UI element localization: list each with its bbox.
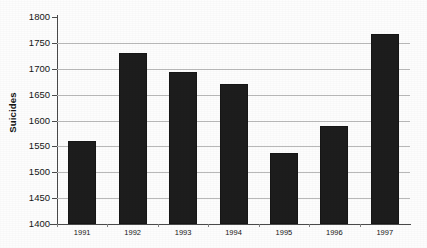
y-axis-tick-label: 1600	[4, 116, 50, 126]
bar	[119, 53, 147, 224]
y-axis-tick-label: 1500	[4, 167, 50, 177]
x-axis-tick-label: 1993	[158, 228, 208, 238]
y-axis-tick	[52, 121, 57, 122]
y-axis-tick	[52, 146, 57, 147]
x-axis-tick-label: 1994	[209, 228, 259, 238]
bar	[320, 126, 348, 224]
x-axis-tick	[107, 224, 108, 227]
plot-area	[57, 17, 410, 224]
x-axis-tick-label: 1995	[259, 228, 309, 238]
y-axis-tick-label: 1700	[4, 64, 50, 74]
bar	[270, 153, 298, 224]
bar	[220, 84, 248, 224]
x-axis-tick	[208, 224, 209, 227]
x-axis-tick-label: 1997	[360, 228, 410, 238]
x-axis-tick-label: 1992	[108, 228, 158, 238]
y-axis-tick	[52, 95, 57, 96]
y-axis-tick-label: 1750	[4, 38, 50, 48]
x-axis-line	[50, 224, 411, 225]
bar-chart: Suicides 1800175017001650160015501500145…	[0, 0, 427, 248]
x-axis-tick	[360, 224, 361, 227]
x-axis-tick	[259, 224, 260, 227]
bar	[169, 72, 197, 224]
gridline	[57, 69, 410, 70]
y-axis-tick	[52, 17, 57, 18]
x-axis-tick-labels: 1991199219931994199519961997	[57, 228, 410, 244]
y-axis-tick-label: 1400	[4, 219, 50, 229]
gridline	[57, 43, 410, 44]
y-axis-tick	[52, 198, 57, 199]
y-axis-tick	[52, 69, 57, 70]
x-axis-tick-label: 1996	[309, 228, 359, 238]
bar	[68, 141, 96, 224]
y-axis-tick	[52, 172, 57, 173]
y-axis-tick-label: 1650	[4, 90, 50, 100]
y-axis-tick-label: 1450	[4, 193, 50, 203]
y-axis-tick	[52, 43, 57, 44]
bar	[371, 34, 399, 224]
x-axis-tick	[309, 224, 310, 227]
y-axis-tick-label: 1550	[4, 141, 50, 151]
y-axis-tick-labels: 180017501700165016001550150014501400	[0, 0, 50, 248]
x-axis-tick-label: 1991	[57, 228, 107, 238]
y-axis-tick-label: 1800	[4, 12, 50, 22]
x-axis-tick	[158, 224, 159, 227]
x-axis-tick	[57, 224, 58, 227]
